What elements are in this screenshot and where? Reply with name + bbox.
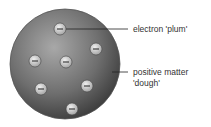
electron-icon (60, 56, 72, 68)
electron-icon (54, 23, 66, 35)
electron-icon (90, 43, 102, 55)
electron-icon (81, 80, 93, 92)
dough-label: 'dough' (133, 78, 160, 88)
electron-icon (66, 103, 78, 115)
electron-icon (35, 83, 47, 95)
electron-icon (29, 55, 41, 67)
plum-pudding-diagram (0, 0, 211, 127)
electron-plum-label: electron 'plum' (133, 24, 187, 34)
positive-matter-label: positive matter (133, 67, 188, 77)
